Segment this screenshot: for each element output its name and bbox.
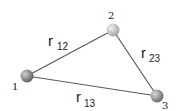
node-label-2: 2 — [108, 10, 114, 21]
diagram-svg: 1 2 3 r 12 r 23 r 13 — [0, 0, 177, 111]
edge-label-r23: r — [141, 44, 146, 61]
edge-subscript-13: 13 — [84, 98, 96, 109]
edge-subscript-23: 23 — [149, 53, 161, 64]
node-2 — [107, 24, 120, 37]
edge-r13 — [27, 76, 157, 96]
node-label-3: 3 — [162, 100, 168, 111]
triangle-distance-diagram: 1 2 3 r 12 r 23 r 13 — [0, 0, 177, 111]
edge-label-r12: r — [48, 32, 53, 49]
node-1 — [21, 70, 34, 83]
edge-r12 — [27, 30, 113, 76]
edge-subscript-12: 12 — [57, 41, 69, 52]
edge-label-r13: r — [76, 88, 81, 105]
node-label-1: 1 — [12, 81, 18, 92]
